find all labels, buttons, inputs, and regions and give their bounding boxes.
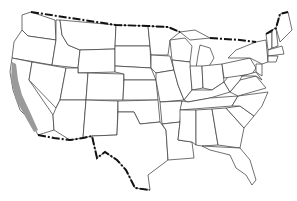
us-map <box>0 0 297 201</box>
state-kansas <box>123 80 158 100</box>
state-arizona <box>53 100 86 140</box>
state-maine <box>276 12 292 42</box>
state-connecticut <box>268 56 278 62</box>
state-colorado <box>86 73 124 100</box>
state-arkansas <box>160 101 182 124</box>
state-florida <box>202 146 256 185</box>
state-new-mexico <box>83 100 118 138</box>
state-wisconsin <box>170 38 192 62</box>
state-wyoming <box>78 49 115 73</box>
state-south-dakota <box>115 46 151 68</box>
state-mississippi <box>178 110 196 145</box>
state-north-dakota <box>115 25 150 46</box>
us-states-outline <box>0 0 297 201</box>
state-indiana <box>190 66 203 90</box>
